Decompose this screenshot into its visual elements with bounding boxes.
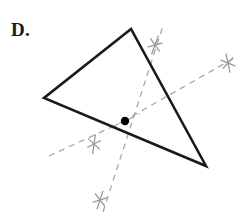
dashed-line-upper-steep (103, 26, 163, 212)
tick-mark-lower-left (87, 134, 102, 154)
tick-marks-group (87, 34, 236, 211)
figure-canvas (0, 0, 243, 222)
tick-mark-right (220, 53, 236, 74)
construction-lines-group (49, 26, 236, 212)
tick-mark-bottom (91, 189, 108, 211)
geometry-figure: D. (0, 0, 243, 222)
centroid-dot (121, 117, 129, 125)
figure-label: D. (11, 19, 30, 41)
dashed-line-upper-right-long (113, 57, 236, 127)
